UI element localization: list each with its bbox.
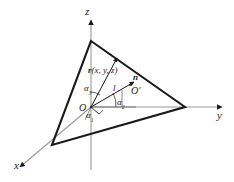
distance-label-l: l [113, 84, 116, 93]
position-vector-label: r(x, y, z) [88, 66, 118, 75]
axis-label-x: x [14, 160, 19, 171]
axis-label-z: z [85, 6, 89, 17]
alpha1-subscript: 1 [91, 117, 94, 123]
alpha3-subscript: 3 [89, 90, 92, 96]
normal-vector-label: n [133, 73, 138, 82]
angle-label-alpha3: α3 [84, 84, 92, 95]
plane-3d-diagram [0, 0, 234, 182]
origin-dot [90, 106, 92, 108]
foot-point-label: O′ [131, 86, 140, 96]
axis-label-y: y [217, 110, 222, 121]
plane-triangle-outline [52, 41, 185, 145]
angle-label-alpha1: α1 [86, 111, 94, 122]
alpha2-subscript: 2 [122, 104, 125, 110]
foot-point-prime: ′ [138, 85, 140, 96]
plane-triangle [52, 41, 185, 145]
position-vector-args: (x, y, z) [92, 65, 118, 75]
alpha2-arc [113, 93, 116, 107]
angle-label-alpha2: α2 [117, 98, 125, 109]
alpha1-arc [99, 110, 103, 114]
